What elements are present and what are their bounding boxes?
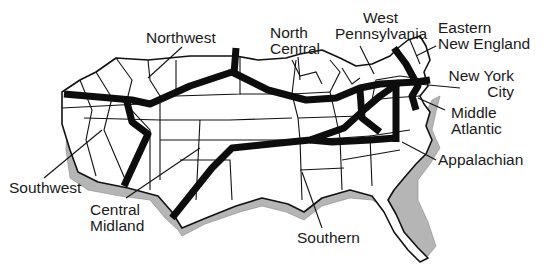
label-northwest: Northwest [146, 30, 216, 46]
label-new-york-city: New York City [448, 68, 514, 100]
label-southern: Southern [297, 230, 360, 246]
label-eastern-new-england: Eastern New England [438, 20, 530, 52]
route-central [310, 138, 396, 142]
label-middle-atlantic: Middle Atlantic [451, 105, 502, 137]
label-central-midland: Central Midland [90, 202, 144, 234]
label-southwest: Southwest [9, 180, 81, 196]
label-appalachian: Appalachian [438, 152, 523, 168]
route-north-spur [234, 48, 236, 74]
label-west-pennsylvania: West Pennsylvania [335, 10, 427, 42]
label-north-central: North Central [270, 25, 320, 57]
